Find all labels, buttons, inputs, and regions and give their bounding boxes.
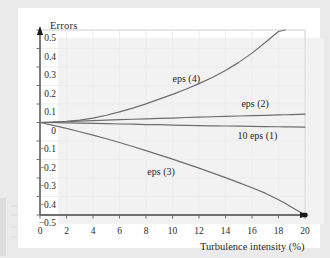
figure-container: Errors Turbulence intensity (%) 0.50.40.… xyxy=(0,0,330,258)
chart-plot-area xyxy=(18,8,320,248)
curve-label-eps-3-: eps (3) xyxy=(147,166,175,177)
curve-label-eps-4-: eps (4) xyxy=(173,73,201,84)
page-edge-artifact xyxy=(10,226,18,228)
page-edge-artifact xyxy=(0,198,6,256)
curve-label-10-eps-1-: 10 eps (1) xyxy=(237,130,277,141)
axis-tick-marks xyxy=(37,30,306,219)
endpoint-markers xyxy=(303,213,307,217)
endpoint-marker xyxy=(303,213,307,217)
chart-panel: Errors Turbulence intensity (%) 0.50.40.… xyxy=(18,8,320,248)
curve-label-eps-2-: eps (2) xyxy=(241,98,269,109)
